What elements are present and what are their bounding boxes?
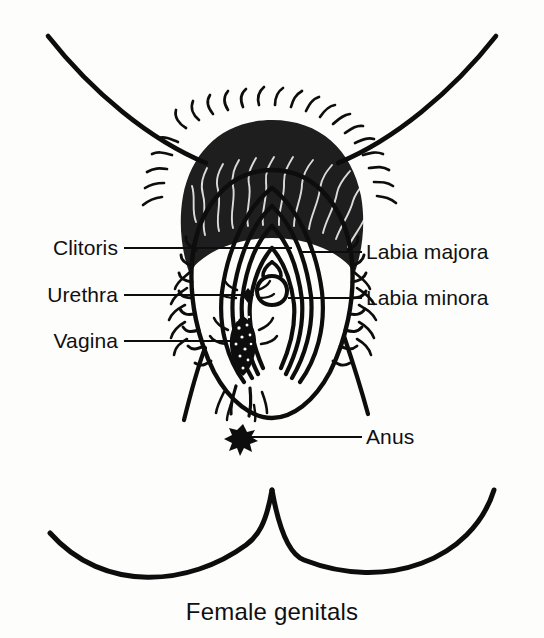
female-genitals-anatomical-drawing [0,0,544,638]
upper-right-thigh-curve [338,36,496,163]
upper-left-thigh-curve [48,36,206,163]
urethra-opening [221,281,274,303]
figure-page: Clitoris Urethra Vagina Labia majora Lab… [0,0,544,638]
vaginal-opening [210,316,277,376]
figure-caption: Female genitals [0,598,544,626]
label-labia-minora: Labia minora [366,286,489,310]
label-anus: Anus [366,425,414,449]
lower-left-thigh-curve [184,348,205,420]
buttock-right-curve [272,490,494,572]
label-vagina: Vagina [0,329,118,353]
anus-marker [224,424,258,456]
label-clitoris: Clitoris [0,236,118,260]
label-labia-majora: Labia majora [366,240,489,264]
buttock-left-curve [50,490,272,577]
label-urethra: Urethra [0,283,118,307]
buttock-crease [50,490,494,577]
